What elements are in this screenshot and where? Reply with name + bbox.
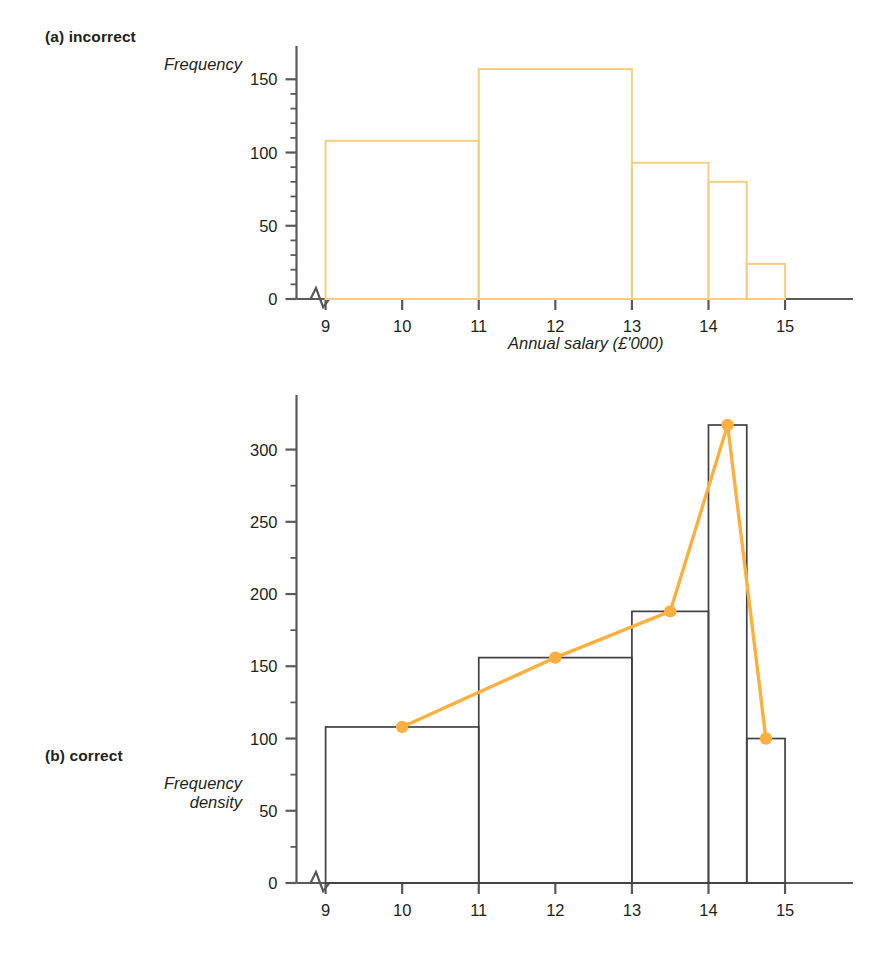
histogram-bar xyxy=(326,141,479,299)
y-tick-label: 150 xyxy=(250,657,278,675)
panel-a-plot: 0501001509101112131415 xyxy=(0,0,874,370)
x-tick-label: 15 xyxy=(776,317,794,335)
frequency-polygon-point xyxy=(396,721,408,733)
y-tick-label: 50 xyxy=(259,802,277,820)
panel-incorrect: (a) incorrect Frequency Annual salary (£… xyxy=(0,0,874,370)
y-tick-label: 250 xyxy=(250,513,278,531)
histogram-bar xyxy=(479,658,632,883)
y-tick-label: 200 xyxy=(250,585,278,603)
histogram-bar xyxy=(479,69,632,299)
y-tick-label: 0 xyxy=(268,290,277,308)
x-tick-label: 11 xyxy=(470,901,487,919)
frequency-polygon-line xyxy=(402,425,766,739)
y-tick-label: 50 xyxy=(259,217,277,235)
x-tick-label: 15 xyxy=(776,901,794,919)
x-tick-label: 14 xyxy=(699,317,717,335)
histogram-bar xyxy=(708,425,746,883)
x-tick-label: 10 xyxy=(393,901,411,919)
y-tick-label: 300 xyxy=(250,441,278,459)
y-tick-label: 100 xyxy=(250,144,278,162)
histogram-bar xyxy=(632,163,709,299)
x-tick-label: 13 xyxy=(623,901,641,919)
panel-correct: (b) correct Frequency density Annual sal… xyxy=(0,370,874,964)
x-tick-label: 9 xyxy=(321,901,330,919)
x-tick-label: 9 xyxy=(321,317,330,335)
x-tick-label: 10 xyxy=(393,317,411,335)
histogram-bar xyxy=(708,182,746,299)
x-tick-label: 12 xyxy=(546,901,564,919)
frequency-polygon-point xyxy=(721,419,733,431)
x-tick-label: 12 xyxy=(546,317,564,335)
y-tick-label: 0 xyxy=(268,874,277,892)
frequency-polygon-point xyxy=(664,605,676,617)
y-tick-label: 100 xyxy=(250,730,278,748)
y-tick-label: 150 xyxy=(250,70,278,88)
frequency-polygon-point xyxy=(760,732,772,744)
histogram-bar xyxy=(747,264,785,299)
x-tick-label: 14 xyxy=(699,901,717,919)
x-tick-label: 13 xyxy=(623,317,641,335)
histogram-bar xyxy=(747,739,785,883)
x-tick-label: 11 xyxy=(470,317,487,335)
panel-b-plot: 0501001502002503009101112131415 xyxy=(0,370,874,964)
frequency-polygon-point xyxy=(549,651,561,663)
histogram-bar xyxy=(326,727,479,883)
histogram-bar xyxy=(632,611,709,883)
